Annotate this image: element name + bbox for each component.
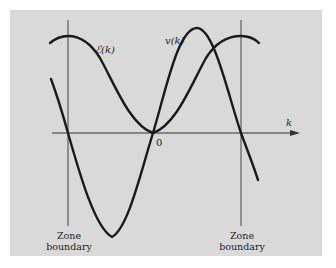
energy-curve xyxy=(50,36,259,133)
zone-label-line2: boundary xyxy=(212,241,272,252)
velocity-curve-label: v(k) xyxy=(165,35,185,46)
zone-label-line1: Zone xyxy=(39,230,99,241)
zone-boundary-right-label: Zone boundary xyxy=(212,230,272,252)
origin-label: 0 xyxy=(156,137,162,148)
energy-curve-label: ℰ(k) xyxy=(95,44,115,55)
zone-boundary-left-label: Zone boundary xyxy=(39,230,99,252)
zone-label-line1: Zone xyxy=(212,230,272,241)
k-axis-label: k xyxy=(286,117,292,128)
zone-label-line2: boundary xyxy=(39,241,99,252)
k-axis-arrow-icon xyxy=(290,130,300,136)
